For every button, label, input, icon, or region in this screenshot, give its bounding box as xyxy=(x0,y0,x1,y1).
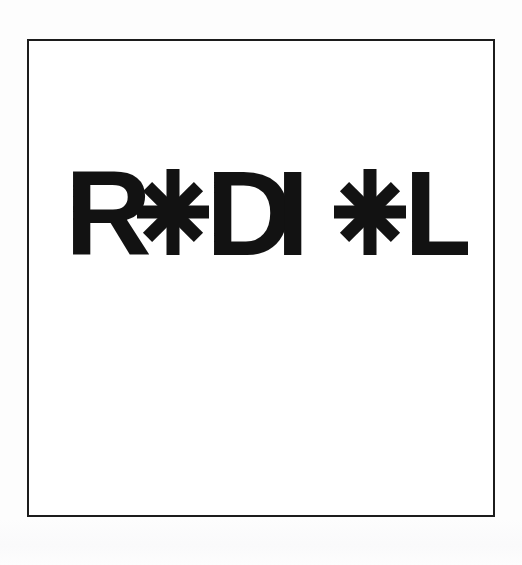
wordmark-text-equivalent: R✳DI✳L xyxy=(29,41,30,42)
asterisk-glyph-2 xyxy=(334,169,406,255)
letter-I: I xyxy=(276,162,307,264)
radial-wordmark: R D I xyxy=(29,41,493,515)
paper-grain-overlay xyxy=(0,519,522,565)
plate-border-frame: R D I xyxy=(27,39,495,517)
letter-L: L xyxy=(404,162,468,264)
page-canvas: R D I xyxy=(0,0,522,565)
wordmark-artwork: R D I xyxy=(68,162,468,264)
